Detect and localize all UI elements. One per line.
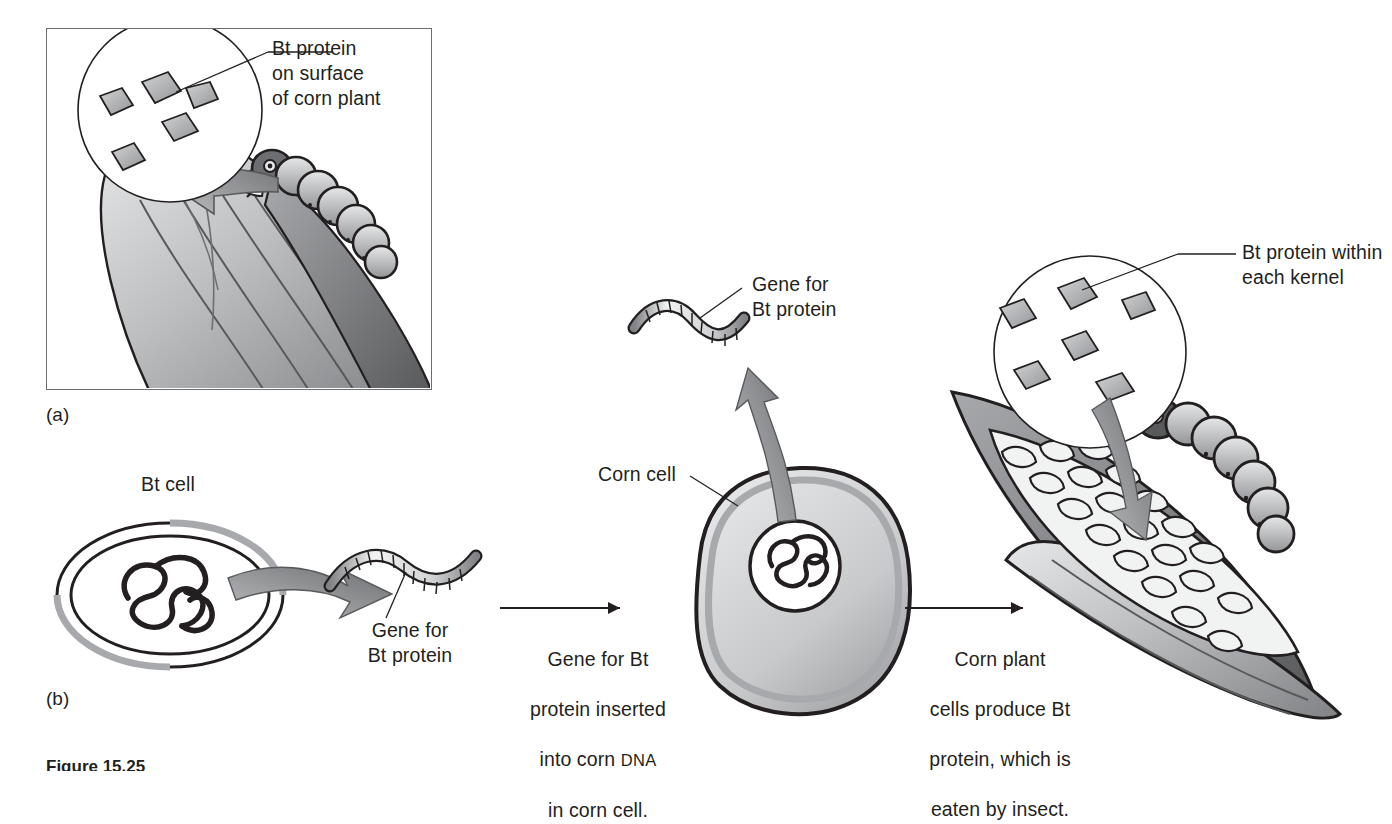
step-2-caption: Corn plant cells produce Bt protein, whi… bbox=[890, 622, 1110, 824]
step-2-line-2: cells produce Bt bbox=[890, 697, 1110, 722]
figure-caption-clipped: Figure 15.25 bbox=[46, 757, 466, 771]
corn-cell-shape bbox=[696, 468, 910, 714]
dna-token: DNA bbox=[621, 751, 657, 769]
step-2-line-3: protein, which is bbox=[890, 747, 1110, 772]
step-1-caption: Gene for Bt protein inserted into corn D… bbox=[488, 622, 708, 824]
panel-b-tag: (b) bbox=[46, 688, 69, 710]
step-2-line-4: eaten by insect. bbox=[890, 797, 1110, 822]
gene-for-bt-protein-label-2: Gene for Bt protein bbox=[752, 272, 892, 322]
step-1-arrow bbox=[500, 602, 620, 614]
step-1-line-2: protein inserted bbox=[488, 697, 708, 722]
figure-caption-text: Figure 15.25 bbox=[46, 757, 466, 771]
gene-for-bt-protein-label-1: Gene for Bt protein bbox=[340, 618, 480, 668]
step-2-arrow bbox=[905, 602, 1023, 614]
bt-cell-label: Bt cell bbox=[108, 472, 228, 497]
step-2-line-1: Corn plant bbox=[890, 647, 1110, 672]
corn-cell-label: Corn cell bbox=[598, 462, 718, 487]
bt-protein-kernel-callout: Bt protein within each kernel bbox=[1242, 240, 1392, 290]
step-1-line-4: in corn cell. bbox=[488, 798, 708, 823]
step-1-line-1: Gene for Bt bbox=[488, 647, 708, 672]
gene-strand-2 bbox=[634, 288, 744, 346]
step-1-line-3: into corn DNA bbox=[488, 747, 708, 773]
